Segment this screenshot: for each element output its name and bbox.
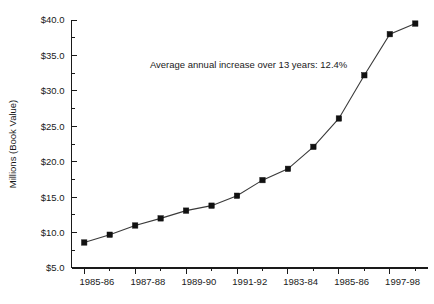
data-point-marker[interactable] bbox=[387, 31, 392, 36]
y-axis-title: Millions (Book Value) bbox=[7, 100, 18, 189]
data-point-marker[interactable] bbox=[260, 177, 265, 182]
y-axis-tick-label: $30.0 bbox=[41, 85, 65, 96]
data-point-marker[interactable] bbox=[209, 203, 214, 208]
data-point-marker[interactable] bbox=[311, 144, 316, 149]
data-point-marker[interactable] bbox=[362, 73, 367, 78]
x-axis-tick-label: 1985-86 bbox=[334, 276, 369, 287]
y-axis-tick-label: $40.0 bbox=[41, 14, 65, 25]
y-axis-tick-label: $35.0 bbox=[41, 50, 65, 61]
x-axis-tick-label: 1985-86 bbox=[80, 276, 115, 287]
chart-page: $5.0$10.0$15.0$20.0$25.0$30.0$35.0$40.01… bbox=[0, 0, 434, 304]
x-axis-tick-label: 1983-84 bbox=[283, 276, 318, 287]
data-point-marker[interactable] bbox=[413, 21, 418, 26]
data-point-marker[interactable] bbox=[132, 223, 137, 228]
chart-annotation: Average annual increase over 13 years: 1… bbox=[150, 59, 348, 70]
y-axis-tick-label: $10.0 bbox=[41, 227, 65, 238]
y-axis-tick-label: $5.0 bbox=[46, 262, 65, 273]
x-axis-tick-label: 1989-90 bbox=[181, 276, 216, 287]
line-chart: $5.0$10.0$15.0$20.0$25.0$30.0$35.0$40.01… bbox=[0, 0, 434, 304]
series-line-book-value bbox=[84, 24, 415, 243]
y-axis-tick-label: $15.0 bbox=[41, 192, 65, 203]
x-axis-tick-label: 1991-92 bbox=[232, 276, 267, 287]
data-point-marker[interactable] bbox=[285, 166, 290, 171]
data-point-marker[interactable] bbox=[336, 116, 341, 121]
data-point-marker[interactable] bbox=[158, 216, 163, 221]
x-axis-tick-label: 1997-98 bbox=[385, 276, 420, 287]
y-axis-tick-label: $20.0 bbox=[41, 156, 65, 167]
y-axis-tick-label: $25.0 bbox=[41, 121, 65, 132]
data-point-marker[interactable] bbox=[82, 240, 87, 245]
data-point-marker[interactable] bbox=[107, 232, 112, 237]
data-point-marker[interactable] bbox=[183, 208, 188, 213]
data-point-marker[interactable] bbox=[234, 193, 239, 198]
x-axis-tick-label: 1987-88 bbox=[130, 276, 165, 287]
